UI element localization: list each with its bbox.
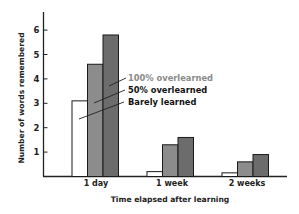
y-tick-label: 5 <box>34 50 40 60</box>
y-tick-label: 3 <box>34 98 40 108</box>
category-label-2-weeks: 2 weeks <box>229 179 266 188</box>
bar-50-overlearned-1-day <box>88 64 104 176</box>
y-axis-title: Number of words remembered <box>17 32 26 163</box>
category-label-1-day: 1 day <box>84 179 109 188</box>
bar-barely-learned-1-week <box>147 172 163 177</box>
y-tick-label: 6 <box>34 25 40 35</box>
category-label-1-week: 1 week <box>156 179 189 188</box>
bar-50-overlearned-1-week <box>163 145 179 177</box>
bar-100-overlearned-1-week <box>178 137 194 176</box>
y-tick-label: 1 <box>34 147 40 157</box>
y-ticks: 123456 <box>34 25 48 157</box>
bar-barely-learned-1-day <box>72 101 88 177</box>
y-tick-label: 4 <box>34 74 40 84</box>
bar-chart: Number of words remembered 123456 100% o… <box>0 0 299 214</box>
bar-50-overlearned-2-weeks <box>238 162 254 177</box>
legend-label-100-overlearned: 100% overlearned <box>128 73 213 83</box>
legend-label-barely-learned: Barely learned <box>128 97 196 107</box>
bar-100-overlearned-1-day <box>103 35 119 177</box>
legend-label-50-overlearned: 50% overlearned <box>128 85 207 95</box>
bar-barely-learned-2-weeks <box>222 173 238 177</box>
y-tick-label: 2 <box>34 123 40 133</box>
x-axis-title: Time elapsed after learning <box>111 195 230 204</box>
bar-100-overlearned-2-weeks <box>253 155 269 177</box>
